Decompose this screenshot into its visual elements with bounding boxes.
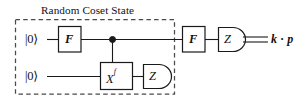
xf-gate-label-group: Xf (106, 70, 116, 86)
f-gate-1-label: F (65, 33, 73, 46)
f-gate-2-label: F (189, 33, 197, 46)
z-measure-bottom-label: Z (149, 70, 156, 83)
z-measure-bottom-shape[interactable] (144, 65, 172, 89)
quantum-circuit-figure: Random Coset State |0⟩ |0⟩ F Xf Z F Z k … (0, 0, 297, 106)
qubit-input-label-q0: |0⟩ (25, 33, 38, 46)
output-label: k · p (271, 33, 294, 45)
z-measure-top-label: Z (224, 33, 231, 46)
group-title: Random Coset State (41, 5, 134, 16)
z-measure-top-shape[interactable] (219, 28, 246, 52)
xf-gate-base-label: X (106, 72, 114, 86)
control-dot-icon (110, 37, 116, 43)
qubit-input-label-q1: |0⟩ (25, 70, 38, 83)
xf-gate-exponent-label: f (114, 67, 116, 76)
